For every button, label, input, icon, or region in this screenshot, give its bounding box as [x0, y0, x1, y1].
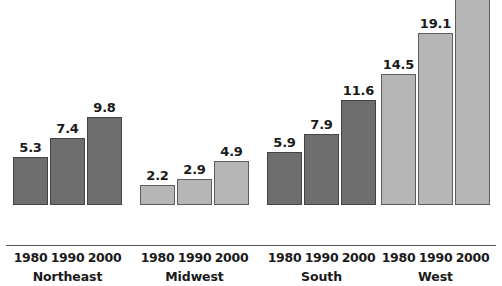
bar-value-label: 11.6 [343, 83, 374, 98]
bars-row: 2.22.94.9 [140, 161, 249, 205]
bar-value-label: 2.2 [146, 168, 168, 183]
bars-row: 5.37.49.8 [13, 117, 122, 205]
bar-value-label: 9.8 [93, 100, 115, 115]
bar-midwest-1980[interactable]: 2.2 [140, 185, 175, 205]
year-labels-south: 198019902000 [267, 250, 376, 265]
bar-northeast-1980[interactable]: 5.3 [13, 157, 48, 205]
bar-midwest-2000[interactable]: 4.9 [214, 161, 249, 205]
year-labels-west: 198019902000 [381, 250, 490, 265]
x-tick-label: 1990 [304, 250, 339, 265]
bars-row: 14.519.124.3 [381, 0, 490, 205]
region-label-northeast: Northeast [13, 269, 122, 284]
x-tick-label: 1980 [13, 250, 48, 265]
bar-rect[interactable] [214, 161, 249, 205]
bar-northeast-1990[interactable]: 7.4 [50, 138, 85, 205]
bar-rect[interactable] [418, 33, 453, 205]
bar-northeast-2000[interactable]: 9.8 [87, 117, 122, 205]
bar-value-label: 7.9 [310, 117, 332, 132]
bar-rect[interactable] [177, 179, 212, 205]
x-tick-label: 2000 [87, 250, 122, 265]
x-tick-label: 2000 [214, 250, 249, 265]
bar-value-label: 2.9 [183, 162, 205, 177]
bar-value-label: 4.9 [220, 144, 242, 159]
bar-rect[interactable] [87, 117, 122, 205]
x-tick-label: 1980 [381, 250, 416, 265]
bar-rect[interactable] [455, 0, 490, 205]
bar-west-2000[interactable]: 24.3 [455, 0, 490, 205]
bar-west-1990[interactable]: 19.1 [418, 33, 453, 205]
x-axis-baseline [6, 245, 496, 246]
bar-chart: 5.37.49.8198019902000Northeast2.22.94.91… [0, 0, 502, 286]
bar-rect[interactable] [140, 185, 175, 205]
bar-rect[interactable] [341, 100, 376, 205]
x-tick-label: 1990 [177, 250, 212, 265]
bar-rect[interactable] [13, 157, 48, 205]
bar-west-1980[interactable]: 14.5 [381, 74, 416, 205]
bar-value-label: 5.3 [19, 140, 41, 155]
region-label-midwest: Midwest [140, 269, 249, 284]
bar-rect[interactable] [50, 138, 85, 205]
bar-value-label: 7.4 [56, 121, 78, 136]
x-tick-label: 2000 [341, 250, 376, 265]
x-tick-label: 1980 [267, 250, 302, 265]
plot-area: 5.37.49.8198019902000Northeast2.22.94.91… [0, 0, 502, 246]
bar-south-1980[interactable]: 5.9 [267, 152, 302, 205]
year-labels-midwest: 198019902000 [140, 250, 249, 265]
bar-value-label: 5.9 [273, 135, 295, 150]
bar-rect[interactable] [267, 152, 302, 205]
x-tick-label: 2000 [455, 250, 490, 265]
bar-rect[interactable] [381, 74, 416, 205]
bar-rect[interactable] [304, 134, 339, 205]
bar-value-label: 19.1 [420, 16, 451, 31]
x-tick-label: 1980 [140, 250, 175, 265]
bars-row: 5.97.911.6 [267, 100, 376, 205]
year-labels-northeast: 198019902000 [13, 250, 122, 265]
bar-south-1990[interactable]: 7.9 [304, 134, 339, 205]
x-tick-label: 1990 [50, 250, 85, 265]
bar-value-label: 14.5 [383, 57, 414, 72]
x-tick-label: 1990 [418, 250, 453, 265]
bar-south-2000[interactable]: 11.6 [341, 100, 376, 205]
region-label-west: West [381, 269, 490, 284]
region-label-south: South [267, 269, 376, 284]
bar-midwest-1990[interactable]: 2.9 [177, 179, 212, 205]
